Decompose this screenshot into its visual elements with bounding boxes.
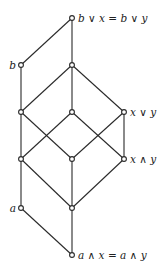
label-x-meet-y: x ∧ y <box>130 153 157 165</box>
node-xay <box>122 157 127 162</box>
edge-top-b <box>21 18 72 65</box>
edge-xay-c5 <box>72 159 124 208</box>
edge-l4-c5 <box>21 159 72 208</box>
lattice-diagram: b ∨ x = b ∨ y b x ∨ y x ∧ y a a ∧ x = a … <box>0 0 167 269</box>
node-bottom <box>70 253 75 258</box>
node-c3 <box>70 110 75 115</box>
edge-m1-xvy <box>72 65 124 112</box>
node-m1 <box>70 63 75 68</box>
node-top <box>70 16 75 21</box>
node-b <box>19 63 24 68</box>
node-a <box>19 206 24 211</box>
node-xvy <box>122 110 127 115</box>
node-l4 <box>19 157 24 162</box>
node-l3 <box>19 110 24 115</box>
node-c4 <box>70 157 75 162</box>
edge-m1-l3 <box>21 65 72 112</box>
node-c5 <box>70 206 75 211</box>
label-bottom: a ∧ x = a ∧ y <box>78 249 148 261</box>
label-top: b ∨ x = b ∨ y <box>78 12 149 24</box>
label-a: a <box>10 202 16 214</box>
labels: b ∨ x = b ∨ y b x ∨ y x ∧ y a a ∧ x = a … <box>9 12 157 261</box>
label-b: b <box>9 59 16 71</box>
edge-a-bottom <box>21 208 72 255</box>
edges <box>21 18 124 255</box>
label-x-join-y: x ∨ y <box>130 106 157 118</box>
